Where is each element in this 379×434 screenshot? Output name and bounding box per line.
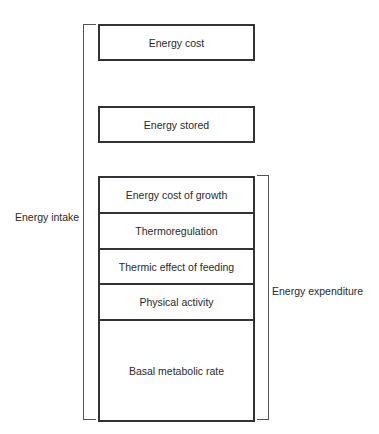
physical-activity-label: Physical activity <box>139 296 213 308</box>
thermic-effect-cell: Thermic effect of feeding <box>100 250 253 285</box>
energy-expenditure-bracket <box>257 175 269 420</box>
growth-cost-cell: Energy cost of growth <box>100 178 253 214</box>
growth-cost-label: Energy cost of growth <box>126 189 228 201</box>
energy-intake-label: Energy intake <box>15 211 79 223</box>
energy-expenditure-stack: Energy cost of growth Thermoregulation T… <box>98 176 255 422</box>
basal-metabolic-rate-cell: Basal metabolic rate <box>100 321 253 420</box>
energy-stored-label: Energy stored <box>144 119 209 131</box>
physical-activity-cell: Physical activity <box>100 285 253 321</box>
energy-cost-label: Energy cost <box>149 37 204 49</box>
energy-cost-box: Energy cost <box>98 24 255 61</box>
thermoregulation-label: Thermoregulation <box>135 225 217 237</box>
energy-intake-bracket <box>83 24 96 420</box>
energy-expenditure-label: Energy expenditure <box>272 285 363 297</box>
energy-stored-box: Energy stored <box>98 106 255 143</box>
thermic-effect-label: Thermic effect of feeding <box>119 261 234 273</box>
basal-metabolic-rate-label: Basal metabolic rate <box>129 365 224 377</box>
thermoregulation-cell: Thermoregulation <box>100 214 253 250</box>
